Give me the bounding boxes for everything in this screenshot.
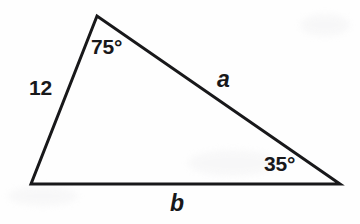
angle-label-35: 35° (264, 153, 295, 174)
triangle-figure: 75° 35° 12 a b (0, 0, 360, 224)
angle-label-75: 75° (91, 36, 122, 57)
side-label-12: 12 (29, 77, 52, 98)
side-label-b: b (170, 192, 184, 215)
side-label-a: a (217, 68, 230, 91)
